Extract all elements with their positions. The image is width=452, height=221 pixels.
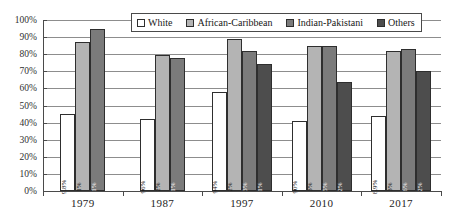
x-axis-tick-label: 2017	[361, 197, 441, 209]
legend-swatch-icon	[186, 19, 194, 27]
x-axis-labels: 19791987199720102017	[43, 197, 441, 209]
bar-group: 8.9%3%6%2%	[361, 20, 441, 191]
y-axis-tick	[43, 106, 47, 107]
bar[interactable]: 8.9%	[371, 116, 386, 191]
y-axis-labels: 0%10%20%30%40%50%60%70%80%90%100%	[0, 20, 40, 191]
y-axis-tick-label: 70%	[20, 66, 37, 76]
bar-group: 90%3%5%2%	[282, 20, 362, 191]
bar[interactable]: 90%	[292, 121, 307, 191]
x-axis-tick	[202, 191, 203, 196]
legend-swatch-icon	[137, 19, 145, 27]
bar-group-bars: 8.9%3%6%2%	[371, 20, 431, 191]
x-axis-tick-label: 2010	[282, 197, 362, 209]
y-axis-tick	[43, 174, 47, 175]
y-axis-tick	[43, 88, 47, 89]
y-axis-tick	[43, 123, 47, 124]
bar-group-bars: 9.8%1%1%	[60, 20, 105, 191]
bar[interactable]: 5%	[322, 46, 337, 191]
legend-item[interactable]: Indian-Pakistani	[286, 18, 363, 28]
legend-swatch-icon	[286, 19, 294, 27]
bar[interactable]: 6%	[401, 49, 416, 191]
bar[interactable]: 1%	[90, 29, 105, 191]
bar[interactable]: 2%	[416, 71, 431, 191]
y-axis-tick-label: 80%	[20, 49, 37, 59]
y-axis-tick	[43, 71, 47, 72]
y-axis-tick-label: 40%	[20, 118, 37, 128]
plot-area: 9.8%1%1%96%2%1%94%2%3%1%90%3%5%2%8.9%3%6…	[43, 20, 441, 191]
bar[interactable]: 1%	[75, 42, 90, 191]
x-axis-tick	[43, 191, 44, 196]
bar-group-bars: 94%2%3%1%	[212, 20, 272, 191]
legend: WhiteAfrican-CaribbeanIndian-PakistaniOt…	[131, 13, 422, 32]
y-axis-tick	[43, 37, 47, 38]
legend-label: African-Caribbean	[197, 18, 272, 28]
bar[interactable]: 9.8%	[60, 114, 75, 191]
bar-group: 9.8%1%1%	[43, 20, 123, 191]
x-axis-tick	[361, 191, 362, 196]
y-axis-tick-label: 50%	[20, 101, 37, 111]
y-axis-tick-label: 100%	[15, 15, 37, 25]
y-axis-tick-label: 30%	[20, 135, 37, 145]
bar[interactable]: 1%	[257, 64, 272, 191]
bar-groups: 9.8%1%1%96%2%1%94%2%3%1%90%3%5%2%8.9%3%6…	[43, 20, 441, 191]
y-axis-tick	[43, 157, 47, 158]
y-axis-tick	[43, 140, 47, 141]
y-axis-tick	[43, 20, 47, 21]
legend-item[interactable]: Others	[377, 18, 415, 28]
bar[interactable]: 96%	[140, 119, 155, 191]
x-axis-tick-label: 1979	[43, 197, 123, 209]
bar[interactable]: 1%	[170, 58, 185, 191]
x-axis-tick-label: 1987	[123, 197, 203, 209]
legend-label: Others	[388, 18, 415, 28]
legend-item[interactable]: White	[137, 18, 172, 28]
y-axis-tick-label: 20%	[20, 152, 37, 162]
y-axis-tick-label: 0%	[24, 186, 37, 196]
x-axis-ticks	[43, 191, 441, 196]
legend-swatch-icon	[377, 19, 385, 27]
legend-label: White	[148, 18, 172, 28]
bar-group: 96%2%1%	[123, 20, 203, 191]
bar[interactable]: 3%	[386, 51, 401, 191]
bar[interactable]: 94%	[212, 92, 227, 191]
x-axis-tick	[123, 191, 124, 196]
bar[interactable]: 2%	[227, 39, 242, 191]
x-axis-tick	[282, 191, 283, 196]
bar[interactable]: 3%	[242, 51, 257, 191]
y-axis-tick-label: 90%	[20, 32, 37, 42]
bar-chart: 0%10%20%30%40%50%60%70%80%90%100% 9.8%1%…	[0, 0, 452, 221]
x-axis-tick	[441, 191, 442, 196]
bar[interactable]: 3%	[307, 46, 322, 191]
y-axis-tick-label: 60%	[20, 83, 37, 93]
legend-item[interactable]: African-Caribbean	[186, 18, 272, 28]
y-axis-tick-label: 10%	[20, 169, 37, 179]
bar-group-bars: 90%3%5%2%	[292, 20, 352, 191]
y-axis-tick	[43, 54, 47, 55]
bar-group-bars: 96%2%1%	[140, 20, 185, 191]
bar[interactable]: 2%	[337, 82, 352, 191]
bar[interactable]: 2%	[155, 55, 170, 191]
x-axis-tick-label: 1997	[202, 197, 282, 209]
legend-label: Indian-Pakistani	[297, 18, 363, 28]
bar-group: 94%2%3%1%	[202, 20, 282, 191]
